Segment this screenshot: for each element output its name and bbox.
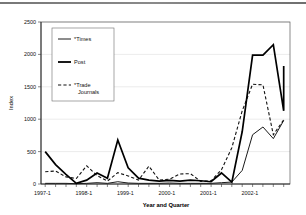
legend: *Times Post *Trade Journals — [52, 28, 114, 101]
x-tick-label-2000-1: 2000-1 — [159, 190, 176, 196]
x-tick-label-1999-1: 1999-1 — [117, 190, 134, 196]
x-tick-label-1998-1: 1998-1 — [76, 190, 93, 196]
y-tick-label-0: 0 — [33, 181, 36, 187]
y-tick-label-1500: 1500 — [24, 84, 36, 90]
y-tick-label-500: 500 — [27, 149, 36, 155]
line-chart-svg: 2500 2000 1500 1000 500 0 Index — [0, 4, 306, 215]
x-tick-label-2001-1: 2001-1 — [200, 190, 217, 196]
x-axis-title: Year and Quarter — [143, 202, 190, 208]
y-axis-title: Index — [8, 96, 14, 110]
y-tick-label-2500: 2500 — [24, 19, 36, 25]
legend-label-post: Post — [74, 59, 86, 65]
x-axis: 1997-1 1998-1 1999-1 2000-1 2001-1 2002-… — [34, 184, 290, 208]
legend-label-trade-line2: Journals — [78, 89, 99, 95]
y-tick-label-1000: 1000 — [24, 116, 36, 122]
y-tick-label-2000: 2000 — [24, 51, 36, 57]
y-axis: 2500 2000 1500 1000 500 0 Index — [8, 19, 41, 187]
x-tick-label-2002-1: 2002-1 — [242, 190, 259, 196]
x-tick-label-1997-1: 1997-1 — [34, 190, 51, 196]
chart-figure: 2500 2000 1500 1000 500 0 Index — [0, 4, 306, 215]
legend-label-times: *Times — [74, 36, 91, 42]
legend-label-trade: *Trade — [74, 82, 91, 88]
series-line-times — [45, 121, 284, 184]
